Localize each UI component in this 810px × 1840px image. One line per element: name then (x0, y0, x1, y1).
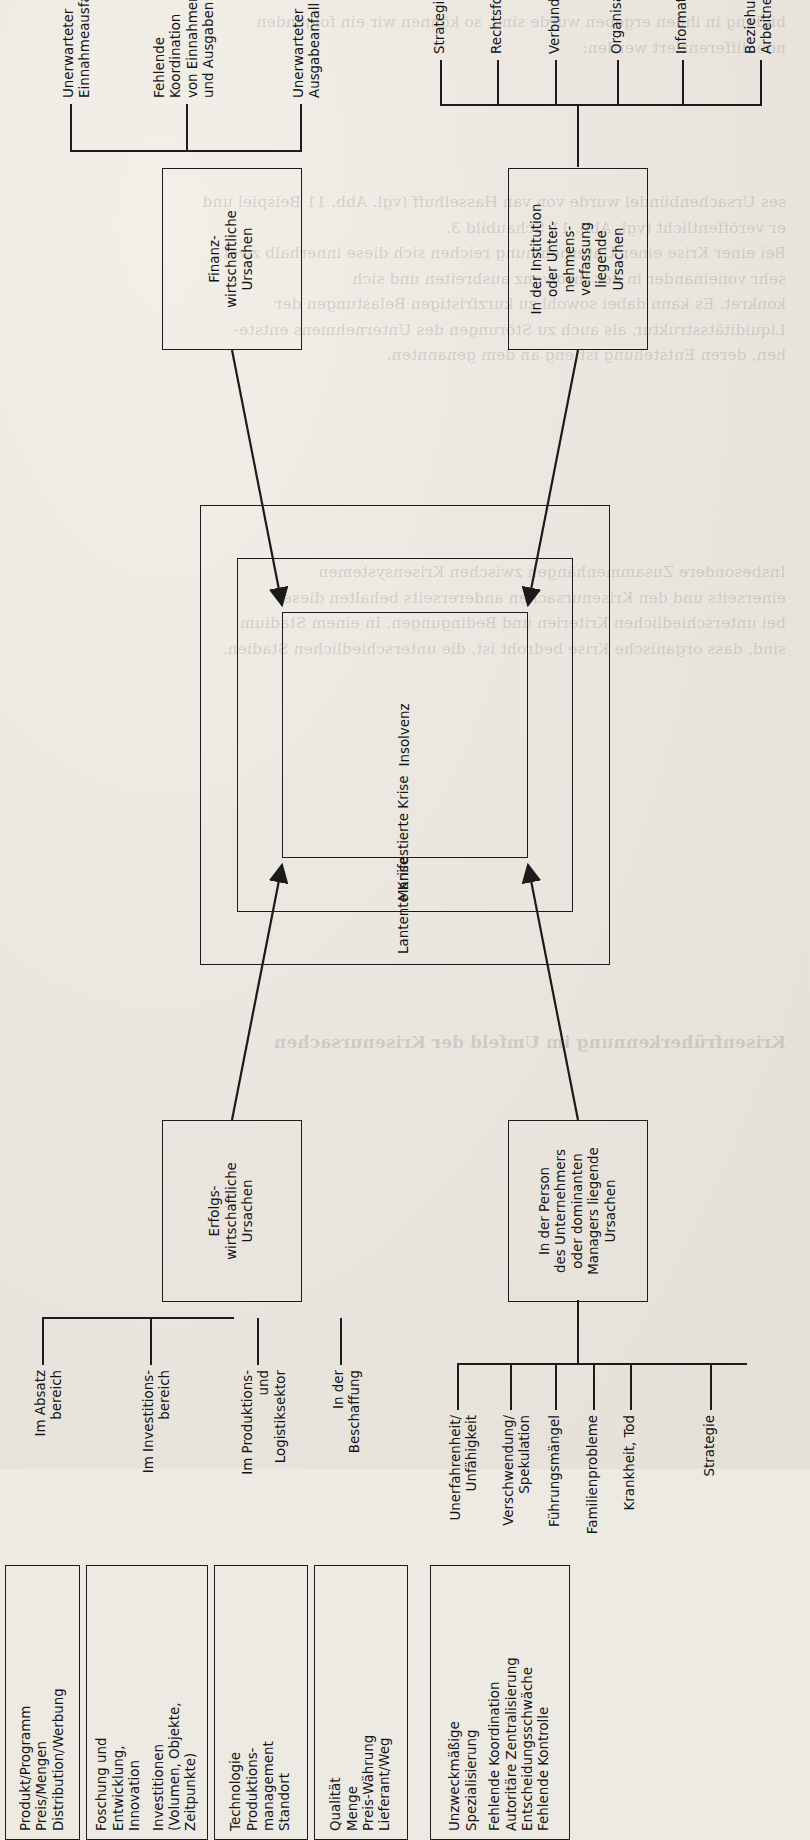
quadrant-line: Ursachen (240, 227, 256, 290)
crisis-arrows (10, 20, 800, 1450)
branch-label-strategie-inst: Strategie (432, 0, 448, 54)
connector-finanz-branch-2 (186, 104, 188, 152)
connector-erfolg-branch-3 (257, 1318, 259, 1365)
quadrant-line: oder dominanten (570, 1153, 586, 1268)
quadrant-line: In der Person (537, 1166, 553, 1254)
quadrant-line: Ursachen (611, 227, 627, 290)
branch-label-organisation: Organisation (609, 0, 625, 54)
connector-erfolg-branch-2 (150, 1318, 152, 1365)
quadrant-line: des Unternehmers (553, 1149, 569, 1273)
quadrant-line: In der Institution (529, 203, 545, 314)
branch-label-arbeitnehmer: Beziehungen zu den Arbeitnehmern (743, 0, 776, 54)
quadrant-line: Ursachen (603, 1179, 619, 1242)
detail-box-absatz: Produkt/Programm Preis/Mengen Distributi… (5, 1565, 80, 1840)
connector-finanz-branch-3 (300, 104, 302, 152)
quadrant-line: Finanz- (207, 235, 223, 283)
quadrant-line: nehmens- (562, 225, 578, 292)
connector-institution-branch-6 (760, 60, 762, 106)
quadrant-box-erfolgswirtschaftliche: Erfolgs- wirtschaftliche Ursachen (162, 1120, 302, 1302)
quadrant-line: wirtschaftliche (224, 1162, 240, 1260)
connector-finanz-bus (70, 150, 188, 152)
connector-institution-branch-4 (617, 60, 619, 106)
branch-label-ausgabeanfall: Unerwarteter Ausgabeanfall (291, 0, 324, 98)
branch-label-verbund: Verbund (547, 0, 563, 54)
detail-box-investition: Foschung und Entwicklung, Innovation Inv… (86, 1565, 208, 1840)
diagram-canvas: Lantente Krise Manifestierte Krise Insol… (10, 20, 800, 1450)
connector-person-bus (457, 1363, 747, 1365)
connector-person-branch-6 (710, 1364, 712, 1410)
connector-institution-bus (440, 104, 760, 106)
connector-person-branch-3 (555, 1364, 557, 1410)
detail-box-produktion: Technologie Produktions- management Stan… (214, 1565, 308, 1840)
connector-institution-branch-1 (440, 60, 442, 106)
branch-label-beschaffung: In der Beschaffung (331, 1370, 364, 1555)
branch-label-absatz: Im Absatz bereich (33, 1370, 66, 1555)
branch-label-koordination: Fehlende Koordination von Einnahmen und … (152, 0, 218, 98)
detail-box-strategie-person: Unzweckmäßige Spezialisierung Fehlende K… (430, 1565, 570, 1840)
connector-erfolg-bus (42, 1317, 187, 1319)
connector-person-branch-1 (457, 1364, 459, 1410)
connector-person-branch-5 (630, 1364, 632, 1410)
connector-erfolg-branch-4 (340, 1318, 342, 1365)
quadrant-line: wirtschaftliche (224, 210, 240, 308)
quadrant-line: liegende (594, 230, 610, 288)
quadrant-line: oder Unter- (545, 221, 561, 297)
branch-label-strategie-person: Strategie (702, 1415, 718, 1600)
quadrant-line: Managers liegende (586, 1147, 602, 1275)
quadrant-line: verfassung (578, 222, 594, 296)
quadrant-box-institution: In der Institution oder Unter- nehmens- … (508, 168, 648, 350)
connector-institution-lead (577, 105, 579, 167)
quadrant-line: Erfolgs- (207, 1185, 223, 1236)
quadrant-line: Ursachen (240, 1179, 256, 1242)
connector-person-lead (577, 1300, 579, 1365)
branch-label-information: Information (674, 0, 690, 54)
connector-institution-branch-3 (555, 60, 557, 106)
connector-person-branch-2 (510, 1364, 512, 1410)
quadrant-box-finanzwirtschaftliche: Finanz- wirtschaftliche Ursachen (162, 168, 302, 350)
connector-erfolg-stem (186, 1317, 234, 1319)
branch-label-rechtsform: Rechtsform (489, 0, 505, 54)
connector-finanz-branch-1 (70, 104, 72, 152)
branch-label-krankheit: Krankheit, Tod (622, 1415, 638, 1600)
branch-label-familienprobleme: Familienprobleme (585, 1415, 601, 1600)
branch-label-investition: Im Investitions- bereich (141, 1370, 174, 1555)
detail-box-beschaffung: Qualität Menge Preis-Währung Lieferant/W… (314, 1565, 408, 1840)
connector-institution-branch-2 (497, 60, 499, 106)
branch-label-produktion: Im Produktions- und Logistiksektor (240, 1370, 289, 1555)
connector-erfolg-branch-1 (42, 1318, 44, 1365)
branch-label-einnahmeausfall: Unerwarteter Einnahmeausfall (61, 0, 94, 98)
connector-person-branch-4 (593, 1364, 595, 1410)
connector-institution-branch-5 (682, 60, 684, 106)
connector-finanz-bus-2 (186, 150, 302, 152)
quadrant-box-person: In der Person des Unternehmers oder domi… (508, 1120, 648, 1302)
